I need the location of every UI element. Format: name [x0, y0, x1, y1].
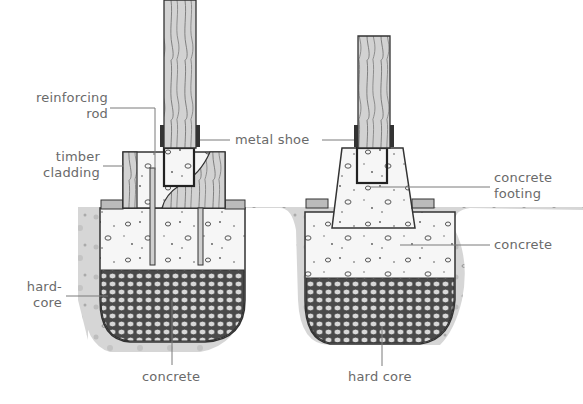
label-concrete-left: concrete [142, 369, 200, 385]
label-text: concrete [494, 170, 552, 186]
label-reinforcing-rod: reinforcing rod [8, 90, 108, 122]
label-text: rod [8, 106, 108, 122]
label-text: reinforcing [8, 90, 108, 106]
label-text: cladding [0, 165, 100, 181]
label-hard-core-right: hard core [348, 369, 412, 385]
label-text: hard- [0, 279, 62, 295]
label-concrete-footing: concrete footing [494, 170, 552, 202]
label-hard-core-left: hard- core [0, 279, 62, 311]
label-concrete-right: concrete [494, 237, 552, 253]
label-timber-cladding: timber cladding [0, 149, 100, 181]
left-footing [100, 0, 245, 342]
label-text: core [0, 295, 62, 311]
label-text: footing [494, 186, 552, 202]
diagram-illustration [0, 0, 583, 404]
label-metal-shoe: metal shoe [235, 132, 309, 148]
footing-diagram: reinforcing rod timber cladding metal sh… [0, 0, 583, 404]
right-footing [305, 36, 455, 344]
label-text: timber [0, 149, 100, 165]
